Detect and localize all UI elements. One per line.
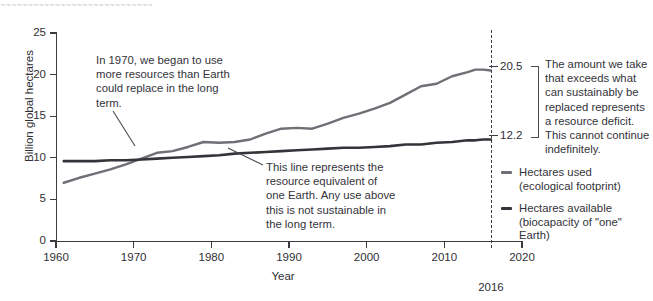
x-tick-2020 bbox=[521, 242, 522, 248]
x-tick-2000 bbox=[366, 242, 367, 248]
leader-line-crossover bbox=[113, 111, 135, 146]
x-tick-1970 bbox=[133, 242, 134, 248]
legend-swatch-biocapacity bbox=[501, 207, 512, 210]
y-tick-15 bbox=[50, 116, 57, 117]
legend-swatch-footprint bbox=[501, 171, 512, 174]
x-tick-label-2020: 2020 bbox=[492, 251, 552, 263]
y-tick-10 bbox=[50, 157, 57, 158]
x-tick-1980 bbox=[211, 242, 212, 248]
x-tick-label-1990: 1990 bbox=[259, 251, 319, 263]
y-tick-20 bbox=[50, 74, 57, 75]
x-tick-1960 bbox=[55, 242, 56, 248]
x-tick-label-2000: 2000 bbox=[337, 251, 397, 263]
leader-lines bbox=[0, 0, 653, 301]
x-tick-label-2010: 2010 bbox=[414, 251, 474, 263]
legend-item-biocapacity[interactable]: Hectares available (biocapacity of "one"… bbox=[501, 202, 653, 243]
legend-label-footprint: Hectares used bbox=[519, 166, 592, 178]
x-tick-label-1960: 1960 bbox=[26, 251, 86, 263]
x-tick-2010 bbox=[444, 242, 445, 248]
y-tick-25 bbox=[50, 32, 57, 33]
legend: Hectares used (ecological footprint) Hec… bbox=[501, 166, 653, 252]
y-tick-5 bbox=[50, 199, 57, 200]
legend-sublabel-biocapacity: (biocapacity of "one" Earth) bbox=[519, 216, 622, 242]
x-tick-label-1980: 1980 bbox=[181, 251, 241, 263]
leader-line-biocapacity bbox=[228, 148, 263, 165]
x-tick-label-1970: 1970 bbox=[104, 251, 164, 263]
legend-item-footprint[interactable]: Hectares used (ecological footprint) bbox=[501, 166, 653, 193]
chart-figure: ~~~~~~~~~~~~~~~~~~~~~~~~~~~~ 0510152025 … bbox=[0, 0, 653, 301]
x-tick-1990 bbox=[288, 242, 289, 248]
legend-label-biocapacity: Hectares available bbox=[519, 202, 612, 214]
legend-sublabel-footprint: (ecological footprint) bbox=[519, 180, 621, 192]
